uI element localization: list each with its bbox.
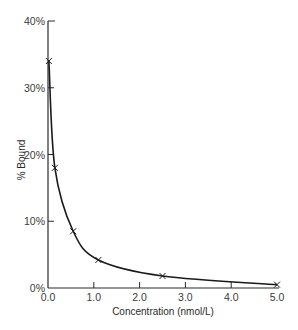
y-axis-label: % Bound — [16, 140, 27, 181]
x-tick-label: 0.0 — [41, 291, 56, 303]
y-tick-label: 20% — [24, 149, 45, 161]
x-tick-label: 2.0 — [132, 291, 147, 303]
x-tick-label: 3.0 — [178, 291, 193, 303]
x-tick-label: 4.0 — [224, 291, 239, 303]
x-axis-label: Concentration (nmol/L) — [112, 306, 214, 317]
x-marker-icon — [95, 257, 101, 263]
y-tick-label: 30% — [24, 82, 45, 94]
data-curve — [49, 61, 277, 285]
data-markers — [46, 58, 280, 288]
chart: 0%10%20%30%40% 0.01.02.03.04.05.0 % Boun… — [0, 0, 298, 330]
x-ticks: 0.01.02.03.04.05.0 — [41, 282, 285, 303]
x-marker-icon — [70, 228, 76, 234]
y-tick-label: 40% — [24, 15, 45, 27]
x-tick-label: 5.0 — [270, 291, 285, 303]
y-tick-label: 10% — [24, 215, 45, 227]
x-tick-label: 1.0 — [86, 291, 101, 303]
y-ticks: 0%10%20%30%40% — [24, 15, 54, 294]
